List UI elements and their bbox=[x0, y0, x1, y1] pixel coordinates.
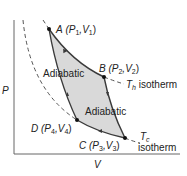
point-a bbox=[47, 27, 51, 31]
x-axis-label: V bbox=[94, 159, 102, 170]
point-d bbox=[75, 118, 79, 122]
th-isotherm-label: Th isotherm bbox=[126, 79, 177, 91]
adiabatic-label-left: Adiabatic bbox=[43, 68, 84, 79]
cycle-area bbox=[49, 29, 125, 138]
point-c bbox=[123, 136, 127, 140]
carnot-pv-diagram: P V A (P1,V1) B (P2,V2) D (P4,V4) C (P3,… bbox=[0, 0, 187, 176]
point-a-label: A (P1,V1) bbox=[55, 24, 96, 36]
th-isotherm-dashed-lower bbox=[104, 77, 124, 84]
point-d-label: D (P4,V4) bbox=[31, 123, 72, 135]
point-c-label: C (P3,V3) bbox=[79, 140, 120, 152]
point-b bbox=[102, 75, 106, 79]
tc-isotherm-label: isotherm bbox=[138, 142, 176, 153]
y-axis-label: P bbox=[2, 85, 9, 96]
point-b-label: B (P2,V2) bbox=[99, 63, 139, 75]
adiabatic-label-right: Adiabatic bbox=[85, 106, 126, 117]
